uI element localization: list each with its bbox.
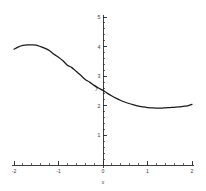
x-axis-label: x — [101, 179, 105, 185]
x-axis-tick-labels: -2-1012 — [12, 168, 194, 174]
x-tick-label: -2 — [12, 168, 17, 174]
y-tick-label: 4 — [98, 44, 101, 50]
y-axis-tick-labels: 12345 — [98, 14, 101, 138]
y-tick-label: 3 — [98, 73, 101, 79]
x-tick-label: 0 — [102, 168, 105, 174]
x-tick-label: 2 — [191, 168, 194, 174]
x-tick-label: -1 — [56, 168, 61, 174]
function-plot-figure: 12345 -2-1012 x y — [0, 0, 206, 191]
y-tick-label: 5 — [98, 14, 101, 20]
x-tick-label: 1 — [146, 168, 149, 174]
y-tick-label: 2 — [98, 103, 101, 109]
y-tick-label: 1 — [98, 132, 101, 138]
plot-canvas: 12345 -2-1012 x y — [0, 0, 206, 191]
